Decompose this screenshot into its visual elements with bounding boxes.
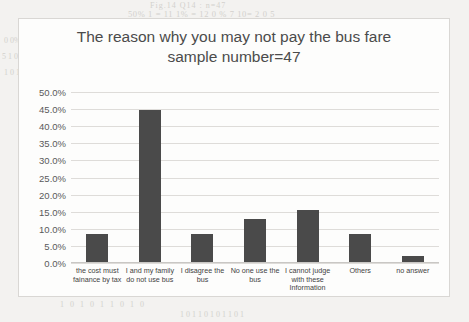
y-axis-tick-label: 10.0% <box>39 223 66 234</box>
y-axis-tick-label: 35.0% <box>39 138 66 149</box>
chart-subtitle: sample number=47 <box>19 47 449 67</box>
y-axis-tick-label: 30.0% <box>39 155 66 166</box>
x-axis-category-label: No one use thebus <box>229 267 282 293</box>
bar[interactable] <box>191 234 213 263</box>
bleed-line-11: 1 0 1 0 1 1 0 1 0 <box>60 300 146 309</box>
bar-slot <box>281 92 334 263</box>
y-axis-tick-label: 40.0% <box>39 121 66 132</box>
y-axis-tick-label: 50.0% <box>39 87 66 98</box>
y-axis-tick-label: 20.0% <box>39 189 66 200</box>
y-axis-tick-label: 25.0% <box>39 172 66 183</box>
y-axis-tick-label: 5.0% <box>44 240 66 251</box>
bar-slot <box>176 92 229 263</box>
y-axis-tick-label: 0.0% <box>44 258 66 269</box>
bar[interactable] <box>86 234 108 263</box>
gridline <box>71 263 439 264</box>
x-axis-line <box>71 262 439 263</box>
bar[interactable] <box>297 210 319 263</box>
chart-title: The reason why you may not pay the bus f… <box>19 27 449 67</box>
bar-slot <box>386 92 439 263</box>
category-label-line: no answer <box>387 267 438 276</box>
x-axis-category-label: the cost mustfainance by tax <box>71 267 124 293</box>
bar-chart: The reason why you may not pay the bus f… <box>18 18 450 297</box>
x-axis-category-label: no answer <box>386 267 439 293</box>
category-label-line: bus <box>230 276 281 285</box>
x-axis-category-label: I cannot judgewith theseInformation <box>281 267 334 293</box>
x-axis-category-label: I disagree thebus <box>176 267 229 293</box>
chart-title-line1: The reason why you may not pay the bus f… <box>77 28 391 45</box>
bar-slot <box>229 92 282 263</box>
bleed-line-12: 1 0 1 1 0 1 0 1 1 0 1 <box>180 310 244 319</box>
x-axis-category-label: I and my familydo not use bus <box>124 267 177 293</box>
y-axis-tick-label: 45.0% <box>39 104 66 115</box>
category-label-line: Others <box>335 267 386 276</box>
bleed-line-1: Fig.14 Q14 : n=47 <box>150 1 226 10</box>
bar[interactable] <box>349 234 371 263</box>
bar-slot <box>334 92 387 263</box>
category-label-line: fainance by tax <box>72 276 123 285</box>
x-axis-category-labels: the cost mustfainance by taxI and my fam… <box>71 267 439 293</box>
bar-slot <box>124 92 177 263</box>
plot-area: 50.0%45.0%40.0%35.0%30.0%25.0%20.0%15.0%… <box>71 92 439 263</box>
y-axis-tick-label: 15.0% <box>39 206 66 217</box>
bar-slot <box>71 92 124 263</box>
bar-series <box>71 92 439 263</box>
x-axis-category-label: Others <box>334 267 387 293</box>
bar[interactable] <box>244 219 266 263</box>
category-label-line: bus <box>177 276 228 285</box>
category-label-line: Information <box>282 284 333 293</box>
bar[interactable] <box>139 110 161 263</box>
category-label-line: do not use bus <box>125 276 176 285</box>
